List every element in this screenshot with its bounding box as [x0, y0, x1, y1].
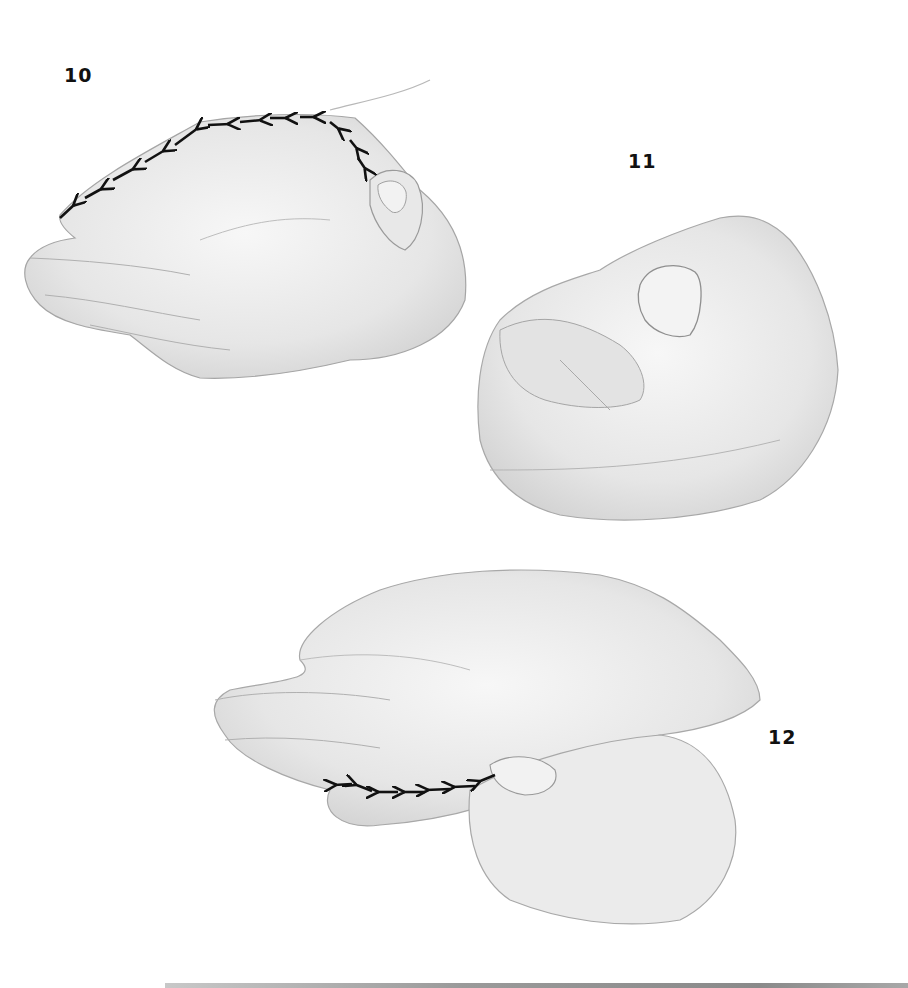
bottom-gradient-bar — [165, 983, 908, 988]
hand-illustration-11 — [478, 216, 838, 520]
figure-number-11: 11 — [628, 150, 656, 172]
illustration-canvas — [0, 0, 908, 988]
hand-illustration-10 — [25, 80, 466, 378]
hand-illustration-12 — [214, 570, 760, 924]
figure-number-10: 10 — [64, 64, 92, 86]
figure-number-12: 12 — [768, 726, 796, 748]
